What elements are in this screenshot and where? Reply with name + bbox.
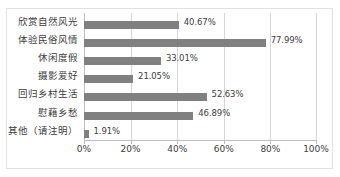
bar[interactable]	[84, 130, 89, 138]
x-tick-label: 40%	[167, 144, 187, 154]
bar-value-label: 46.89%	[198, 108, 230, 118]
x-tick-label: 100%	[303, 144, 329, 154]
category-label: 回归乡村生活	[0, 88, 78, 100]
bar-value-label: 21.05%	[138, 71, 170, 81]
category-label: 慰藉乡愁	[0, 107, 78, 119]
bar-value-label: 77.99%	[271, 35, 303, 45]
bar-value-label: 40.67%	[184, 17, 216, 27]
x-tick-label: 0%	[77, 144, 91, 154]
bar[interactable]	[84, 112, 193, 120]
bar-value-label: 52.63%	[212, 89, 244, 99]
bar-value-label: 1.91%	[94, 126, 121, 136]
category-label: 欣赏自然风光	[0, 16, 78, 28]
gridline-80	[270, 13, 271, 140]
bar[interactable]	[84, 75, 133, 83]
bar[interactable]	[84, 21, 179, 29]
category-label: 其他（请注明）	[0, 125, 78, 137]
gridline-60	[224, 13, 225, 140]
plot-area: 40.67% 77.99% 33.01% 21.05% 52.63% 46.89…	[84, 13, 317, 140]
x-tick-label: 80%	[260, 144, 280, 154]
category-label: 摄影爱好	[0, 70, 78, 82]
gridline-100	[316, 13, 317, 140]
x-axis-tick-labels: 0% 20% 40% 60% 80% 100%	[84, 144, 317, 160]
bar[interactable]	[84, 57, 161, 65]
category-label: 休闲度假	[0, 52, 78, 64]
bar[interactable]	[84, 93, 207, 101]
category-label: 体验民俗风情	[0, 34, 78, 46]
category-axis-labels: 欣赏自然风光 体验民俗风情 休闲度假 摄影爱好 回归乡村生活 慰藉乡愁 其他（请…	[1, 13, 78, 140]
x-tick-label: 60%	[214, 144, 234, 154]
x-tick-label: 20%	[121, 144, 141, 154]
x-axis-line	[84, 140, 317, 141]
bar[interactable]	[84, 39, 266, 47]
chart-container: 欣赏自然风光 体验民俗风情 休闲度假 摄影爱好 回归乡村生活 慰藉乡愁 其他（请…	[6, 8, 333, 169]
gridline-40	[177, 13, 178, 140]
bar-value-label: 33.01%	[166, 53, 198, 63]
